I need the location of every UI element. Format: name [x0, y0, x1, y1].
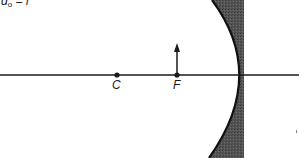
object-arrow-head-icon	[174, 43, 180, 52]
point-c-label: C	[112, 79, 121, 91]
point-f-label: F	[173, 79, 180, 91]
condition-label: do = f	[1, 0, 29, 9]
point-f-dot	[174, 72, 179, 77]
ray-diagram	[0, 0, 299, 158]
scan-mark	[296, 130, 297, 133]
diagram-canvas: do = f C F	[0, 0, 299, 158]
point-c-dot	[114, 72, 119, 77]
